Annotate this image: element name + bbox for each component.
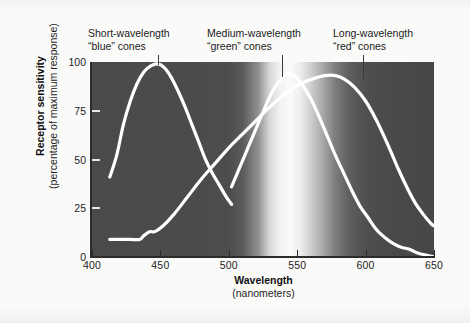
x-tick-mark [434, 250, 435, 256]
x-tick-label: 550 [288, 259, 306, 271]
x-axis-subtitle: (nanometers) [92, 287, 435, 299]
y-tick-label: 25 [0, 202, 86, 214]
y-axis-title-group: Receptor sensitivity (percentage of maxi… [34, 16, 62, 196]
x-tick-mark [366, 250, 367, 256]
y-tick-mark [92, 159, 100, 161]
x-tick-label: 450 [151, 259, 169, 271]
annotation-leader-line-red [363, 55, 364, 79]
x-axis-line [92, 256, 435, 258]
x-tick-mark [92, 250, 93, 256]
x-tick-mark [297, 250, 298, 256]
figure-container: 400450500550600650 0255075100 Wavelength… [0, 0, 470, 323]
y-tick-mark [92, 207, 100, 209]
sensitivity-curves [92, 62, 434, 257]
x-tick-label: 650 [425, 259, 443, 271]
curve-blue-cones [110, 64, 232, 204]
y-axis-title: Receptor sensitivity [34, 16, 47, 196]
x-tick-mark [160, 250, 161, 256]
annotation-red-cones: Long-wavelength“red” cones [333, 27, 413, 53]
figure-inner: 400450500550600650 0255075100 Wavelength… [0, 0, 470, 323]
annotation-green-cones: Medium-wavelength“green” cones [207, 27, 301, 53]
annotation-leader-line-blue [158, 55, 159, 65]
annotation-line-1: Medium-wavelength [207, 27, 301, 40]
annotation-line-1: Long-wavelength [333, 27, 413, 40]
x-tick-label: 600 [357, 259, 375, 271]
annotation-leader-line-green [282, 55, 283, 77]
annotation-blue-cones: Short-wavelength“blue” cones [88, 27, 170, 53]
annotation-line-1: Short-wavelength [88, 27, 170, 40]
x-tick-label: 500 [220, 259, 238, 271]
x-tick-mark [229, 250, 230, 256]
y-tick-label: 0 [0, 251, 86, 263]
plot-area [92, 62, 434, 257]
curves-group [110, 64, 434, 257]
y-axis-subtitle: (percentage of maximum response) [47, 16, 60, 196]
annotation-line-2: “green” cones [207, 40, 301, 53]
annotation-line-2: “red” cones [333, 40, 413, 53]
y-tick-mark [92, 110, 100, 112]
curve-red-cones [110, 75, 434, 240]
x-axis-title: Wavelength [92, 274, 435, 286]
curve-green-cones [232, 73, 434, 257]
annotation-line-2: “blue” cones [88, 40, 170, 53]
